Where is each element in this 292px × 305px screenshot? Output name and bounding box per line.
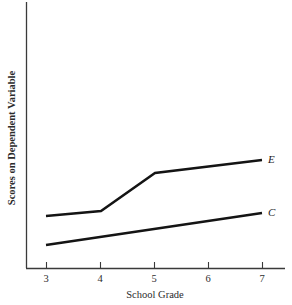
chart-figure: 3 4 5 6 7 E C School Grade Scores on Dep… (0, 0, 292, 305)
y-axis-title: Scores on Dependent Variable (6, 71, 17, 206)
line-chart-canvas: 3 4 5 6 7 E C School Grade Scores on Dep… (0, 0, 292, 305)
series-line-c (46, 213, 262, 245)
x-tick-label-5: 5 (151, 273, 156, 284)
x-tick-label-4: 4 (97, 273, 103, 284)
series-label-c: C (268, 206, 276, 218)
x-tick-label-7: 7 (259, 273, 264, 284)
x-tick-label-3: 3 (43, 273, 48, 284)
x-tick-label-6: 6 (205, 273, 210, 284)
series-line-e (46, 160, 262, 216)
series-label-e: E (267, 153, 275, 165)
x-axis-title: School Grade (126, 289, 184, 300)
